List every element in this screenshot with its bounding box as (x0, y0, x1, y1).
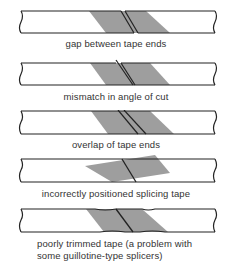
diagram-overlap-of-tape-ends: overlap of tape ends (0, 110, 232, 160)
caption-line-1: poorly trimmed tape (a problem with (37, 238, 232, 250)
diagram-mismatch-in-angle-of-cut: mismatch in angle of cut (0, 55, 232, 110)
caption: incorrectly positioned splicing tape (0, 188, 232, 200)
diagram-gap-between-tape-ends: gap between tape ends (0, 0, 232, 55)
tape-splice-illustration (0, 0, 232, 40)
tape-splice-illustration (0, 55, 232, 95)
caption-line-2: some guillotine-type splicers) (37, 250, 232, 262)
tape-splice-illustration (0, 155, 232, 187)
caption: gap between tape ends (0, 38, 232, 50)
tape-splice-illustration (0, 110, 232, 140)
caption: overlap of tape ends (0, 139, 232, 151)
tape-splice-illustration (0, 205, 232, 237)
diagram-incorrectly-positioned-splicing-tape: incorrectly positioned splicing tape (0, 155, 232, 207)
caption: mismatch in angle of cut (0, 91, 232, 103)
diagram-poorly-trimmed-tape: poorly trimmed tape (a problem with some… (0, 205, 232, 273)
